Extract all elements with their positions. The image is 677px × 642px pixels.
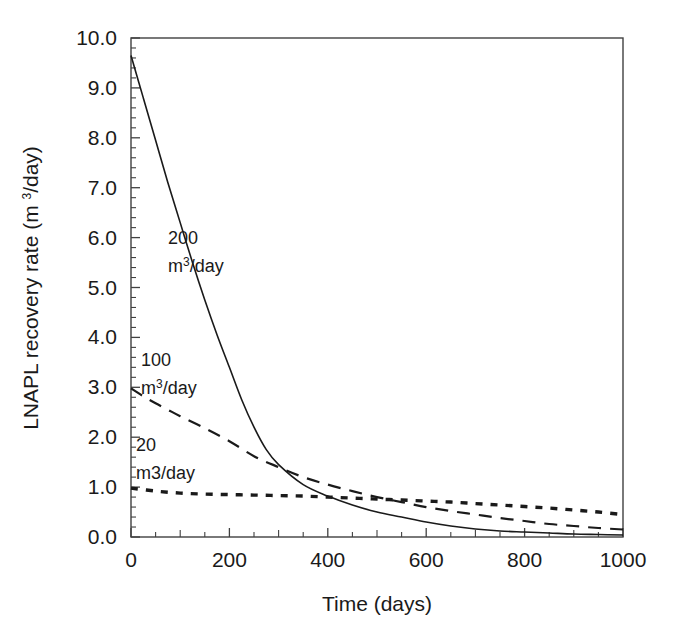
- x-tick-label: 400: [310, 548, 345, 571]
- series-200-unit-tail: /day: [190, 256, 224, 276]
- y-tick-label: 6.0: [88, 226, 117, 249]
- y-tick-label: 3.0: [88, 375, 117, 398]
- y-tick-label: 1.0: [88, 475, 117, 498]
- series-100-value-label: 100: [141, 350, 171, 370]
- y-axis-title: LNAPL recovery rate (m 3/day): [19, 146, 42, 430]
- x-tick-label: 200: [212, 548, 247, 571]
- series-200-unit-label: m3/day: [168, 255, 224, 276]
- y-tick-label: 8.0: [88, 126, 117, 149]
- x-axis-title: Time (days): [322, 592, 432, 615]
- series-200-value-label: 200: [168, 228, 198, 248]
- series-100-unit-tail: /day: [163, 378, 197, 398]
- series-200-unit-base: m: [168, 256, 183, 276]
- y-tick-label: 0.0: [88, 525, 117, 548]
- chart-canvas: 02004006008001000 0.01.02.03.04.05.06.07…: [0, 0, 677, 642]
- series-20-value-label: 20: [136, 435, 156, 455]
- x-tick-label: 800: [507, 548, 542, 571]
- y-tick-label: 10.0: [76, 26, 117, 49]
- series-100-unit-base: m: [141, 378, 156, 398]
- x-tick-label: 0: [125, 548, 137, 571]
- chart-figure: 02004006008001000 0.01.02.03.04.05.06.07…: [0, 0, 677, 642]
- y-tick-label: 9.0: [88, 76, 117, 99]
- y-axis-title-tail: /day): [19, 146, 42, 193]
- x-tick-label: 600: [409, 548, 444, 571]
- series-100-unit-label: m3/day: [141, 377, 197, 398]
- y-tick-label: 4.0: [88, 325, 117, 348]
- y-tick-label: 2.0: [88, 425, 117, 448]
- series-20-unit-label: m3/day: [136, 463, 195, 483]
- x-tick-label: 1000: [600, 548, 647, 571]
- y-tick-label: 7.0: [88, 176, 117, 199]
- y-axis-title-main: LNAPL recovery rate (m: [19, 200, 42, 430]
- y-tick-label: 5.0: [88, 276, 117, 299]
